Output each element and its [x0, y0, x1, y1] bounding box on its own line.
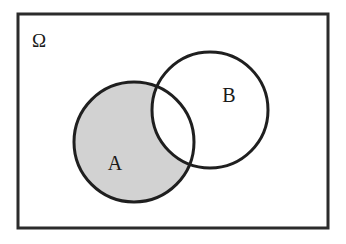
set-b-label: B: [222, 84, 235, 106]
omega-label: Ω: [32, 30, 46, 51]
venn-diagram-figure: Ω A B: [0, 0, 346, 244]
region-a-minus-b-shaded: [0, 0, 346, 244]
venn-diagram-canvas: Ω A B: [0, 0, 346, 244]
set-a-label: A: [108, 152, 123, 174]
